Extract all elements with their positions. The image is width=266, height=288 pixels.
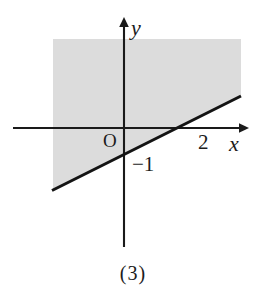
coordinate-plane-figure: y x O 2 −1: [0, 0, 266, 288]
x-axis-arrow-icon: [239, 123, 249, 133]
y-axis-arrow-icon: [119, 17, 129, 27]
y-axis-label: y: [131, 17, 141, 39]
x-intercept-tick-label: 2: [198, 132, 209, 153]
figure-canvas: [0, 0, 266, 288]
x-axis-label: x: [229, 133, 239, 155]
figure-caption: (3): [0, 262, 266, 285]
origin-label: O: [103, 131, 117, 150]
y-intercept-tick-label: −1: [132, 154, 154, 175]
